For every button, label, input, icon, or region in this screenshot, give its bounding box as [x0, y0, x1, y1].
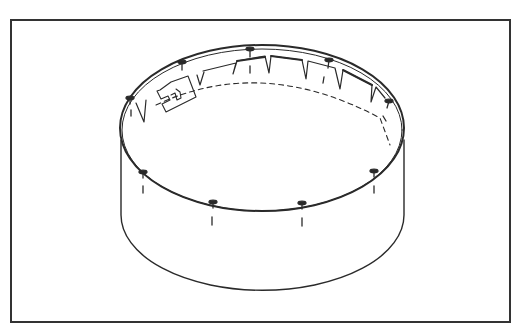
top-rail	[120, 45, 404, 211]
pool-wall	[121, 140, 404, 290]
skimmer-bracket	[157, 76, 196, 112]
rail-cap-icon	[383, 99, 393, 121]
pool-diagram	[0, 0, 524, 328]
inner-wall-dashed-line	[156, 83, 390, 145]
rail-cap-icon	[139, 170, 147, 193]
rail-cap-icon	[298, 201, 306, 226]
rail-cap-icon	[126, 96, 134, 116]
rail-cap-icon	[323, 58, 333, 83]
rail-cap-icon	[209, 200, 217, 225]
